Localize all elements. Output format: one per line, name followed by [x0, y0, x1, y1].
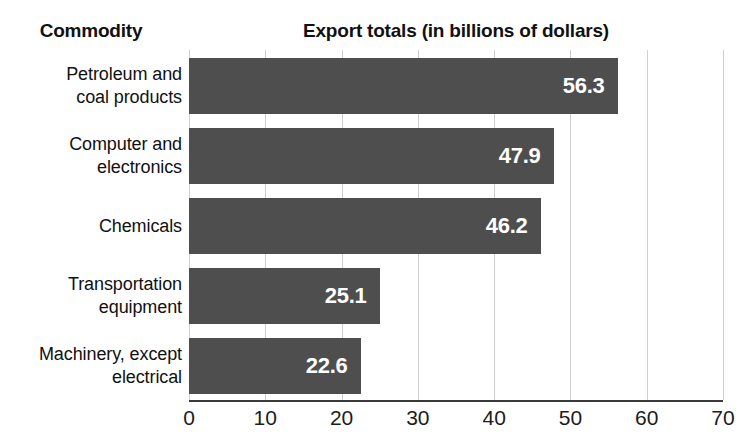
bar-chart: Commodity Export totals (in billions of …: [0, 0, 749, 447]
category-label: Machinery, exceptelectrical: [0, 343, 182, 389]
x-tick-label: 0: [159, 406, 219, 430]
bar[interactable]: 56.3: [189, 58, 618, 114]
bar-value-label: 46.2: [486, 213, 542, 239]
category-label-line: Computer and: [0, 133, 182, 156]
x-tick-label: 10: [235, 406, 295, 430]
bar-value-label: 56.3: [563, 73, 619, 99]
bar[interactable]: 47.9: [189, 128, 554, 184]
x-tick-label: 50: [540, 406, 600, 430]
bar[interactable]: 46.2: [189, 198, 541, 254]
category-label-line: Chemicals: [0, 215, 182, 238]
category-label-line: electronics: [0, 156, 182, 179]
bar[interactable]: 25.1: [189, 268, 380, 324]
category-label-line: Petroleum and: [0, 63, 182, 86]
commodity-column-header: Commodity: [0, 20, 182, 42]
category-label: Petroleum andcoal products: [0, 63, 182, 109]
bar-row: Chemicals46.2: [0, 198, 749, 254]
x-tick-label: 40: [464, 406, 524, 430]
bar-value-label: 22.6: [306, 353, 362, 379]
category-label: Computer andelectronics: [0, 133, 182, 179]
bar-row: Machinery, exceptelectrical22.6: [0, 338, 749, 394]
category-label: Transportationequipment: [0, 273, 182, 319]
category-label-line: Machinery, except: [0, 343, 182, 366]
bar-row: Computer andelectronics47.9: [0, 128, 749, 184]
category-label-line: electrical: [0, 366, 182, 389]
bar-value-label: 25.1: [325, 283, 381, 309]
category-label-line: equipment: [0, 296, 182, 319]
export-totals-column-header: Export totals (in billions of dollars): [189, 20, 723, 42]
bar-value-label: 47.9: [499, 143, 555, 169]
x-tick-label: 70: [693, 406, 749, 430]
x-tick-label: 30: [388, 406, 448, 430]
x-axis-line: [189, 400, 723, 402]
x-tick-label: 60: [617, 406, 677, 430]
bar-row: Petroleum andcoal products56.3: [0, 58, 749, 114]
bar-row: Transportationequipment25.1: [0, 268, 749, 324]
bar[interactable]: 22.6: [189, 338, 361, 394]
category-label-line: coal products: [0, 86, 182, 109]
category-label: Chemicals: [0, 215, 182, 238]
category-label-line: Transportation: [0, 273, 182, 296]
x-tick-label: 20: [312, 406, 372, 430]
